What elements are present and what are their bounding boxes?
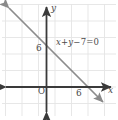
x-axis-tick-label-6: 6 bbox=[76, 88, 82, 98]
equation-op-minus: − bbox=[73, 37, 80, 47]
equation-constant-0: 0 bbox=[94, 37, 100, 47]
equation-op-equals: = bbox=[86, 37, 93, 47]
x-axis-label: x bbox=[108, 85, 113, 95]
equation-label: x+y−7=0 bbox=[56, 37, 99, 47]
y-axis-label: y bbox=[51, 3, 56, 13]
origin-label: O bbox=[38, 86, 45, 96]
y-axis-tick-label-6: 6 bbox=[36, 43, 42, 53]
plot-canvas bbox=[0, 0, 118, 120]
coordinate-plane-figure: x+y−7=0 y x O 6 6 bbox=[0, 0, 118, 120]
plot-background bbox=[0, 0, 118, 120]
